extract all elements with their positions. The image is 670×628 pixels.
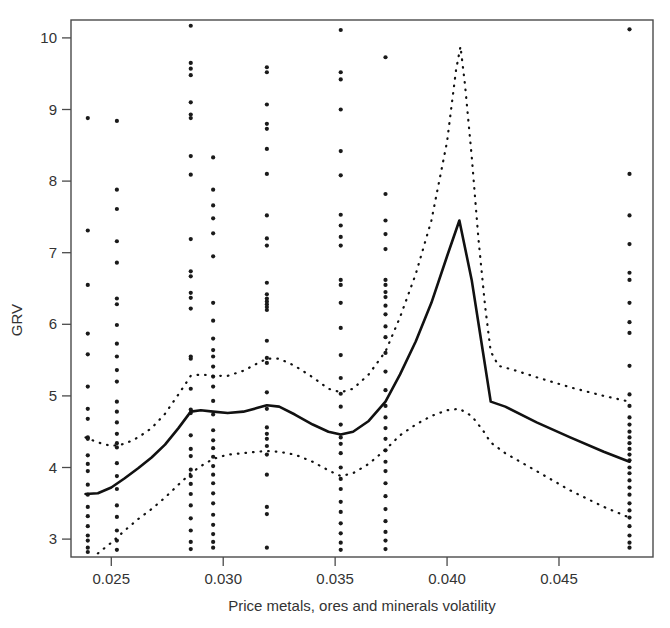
data-point bbox=[339, 541, 343, 545]
data-point bbox=[115, 379, 119, 383]
data-point bbox=[86, 228, 90, 232]
data-point bbox=[211, 364, 215, 368]
data-point bbox=[627, 465, 631, 469]
data-point bbox=[339, 442, 343, 446]
data-point bbox=[339, 173, 343, 177]
data-point bbox=[627, 364, 631, 368]
data-point bbox=[115, 323, 119, 327]
data-point bbox=[115, 207, 119, 211]
data-point bbox=[339, 500, 343, 504]
data-point bbox=[86, 533, 90, 537]
data-point bbox=[339, 422, 343, 426]
data-point bbox=[627, 430, 631, 434]
data-point bbox=[211, 473, 215, 477]
data-point bbox=[383, 192, 387, 196]
data-point bbox=[627, 435, 631, 439]
data-point bbox=[115, 354, 119, 358]
data-point bbox=[383, 324, 387, 328]
data-point bbox=[383, 437, 387, 441]
data-point bbox=[189, 516, 193, 520]
data-point bbox=[339, 223, 343, 227]
data-point bbox=[627, 453, 631, 457]
data-point bbox=[211, 491, 215, 495]
data-point bbox=[86, 407, 90, 411]
data-point bbox=[339, 531, 343, 535]
data-point bbox=[627, 278, 631, 282]
data-point bbox=[383, 519, 387, 523]
data-point bbox=[383, 247, 387, 251]
data-point bbox=[383, 426, 387, 430]
confidence-bound-curve bbox=[86, 46, 630, 446]
data-point bbox=[339, 405, 343, 409]
x-tick-label: 0.040 bbox=[428, 570, 466, 587]
data-point bbox=[211, 216, 215, 220]
data-point bbox=[86, 505, 90, 509]
data-point bbox=[211, 513, 215, 517]
data-point bbox=[189, 67, 193, 71]
data-point bbox=[265, 444, 269, 448]
data-point bbox=[265, 453, 269, 457]
scatter-plot-figure: 3456789100.0250.0300.0350.0400.045 GRV P… bbox=[0, 0, 670, 628]
data-point bbox=[189, 154, 193, 158]
data-point bbox=[339, 107, 343, 111]
x-tick-label: 0.035 bbox=[316, 570, 354, 587]
data-point bbox=[339, 235, 343, 239]
data-point bbox=[339, 213, 343, 217]
data-point bbox=[189, 116, 193, 120]
data-point bbox=[211, 532, 215, 536]
data-point bbox=[211, 501, 215, 505]
data-point bbox=[211, 354, 215, 358]
data-point bbox=[339, 435, 343, 439]
data-point bbox=[383, 218, 387, 222]
data-point bbox=[383, 530, 387, 534]
data-point bbox=[627, 415, 631, 419]
y-tick-label: 5 bbox=[49, 387, 57, 404]
data-point bbox=[115, 119, 119, 123]
data-point bbox=[115, 400, 119, 404]
data-point bbox=[86, 524, 90, 528]
data-point bbox=[383, 469, 387, 473]
data-point bbox=[115, 474, 119, 478]
data-point bbox=[339, 376, 343, 380]
data-point bbox=[383, 335, 387, 339]
data-point bbox=[627, 392, 631, 396]
data-point bbox=[189, 274, 193, 278]
data-point bbox=[189, 540, 193, 544]
data-point bbox=[189, 296, 193, 300]
data-point bbox=[339, 243, 343, 247]
data-point bbox=[339, 70, 343, 74]
data-point bbox=[627, 493, 631, 497]
data-point bbox=[211, 231, 215, 235]
x-tick-label: 0.030 bbox=[204, 570, 242, 587]
x-axis-title: Price metals, ores and minerals volatili… bbox=[228, 597, 496, 614]
data-point bbox=[211, 348, 215, 352]
data-point bbox=[189, 454, 193, 458]
data-point bbox=[115, 432, 119, 436]
data-point bbox=[86, 538, 90, 542]
data-point bbox=[265, 437, 269, 441]
data-point bbox=[211, 464, 215, 468]
data-point bbox=[86, 462, 90, 466]
data-point bbox=[627, 320, 631, 324]
data-point bbox=[339, 353, 343, 357]
data-point bbox=[383, 547, 387, 551]
fitted-curves-layer bbox=[86, 46, 630, 553]
data-point bbox=[265, 361, 269, 365]
data-point bbox=[211, 540, 215, 544]
y-axis-title: GRV bbox=[8, 304, 25, 336]
data-point bbox=[115, 296, 119, 300]
data-point bbox=[115, 487, 119, 491]
data-point bbox=[115, 368, 119, 372]
data-point bbox=[265, 243, 269, 247]
tick-labels-group: 3456789100.0250.0300.0350.0400.045 bbox=[40, 29, 577, 587]
data-point bbox=[383, 369, 387, 373]
data-point bbox=[383, 415, 387, 419]
data-point bbox=[383, 304, 387, 308]
data-point bbox=[211, 546, 215, 550]
data-point bbox=[627, 524, 631, 528]
y-tick-label: 10 bbox=[40, 29, 57, 46]
data-point bbox=[86, 483, 90, 487]
data-point bbox=[189, 306, 193, 310]
data-point bbox=[627, 501, 631, 505]
data-point bbox=[627, 478, 631, 482]
